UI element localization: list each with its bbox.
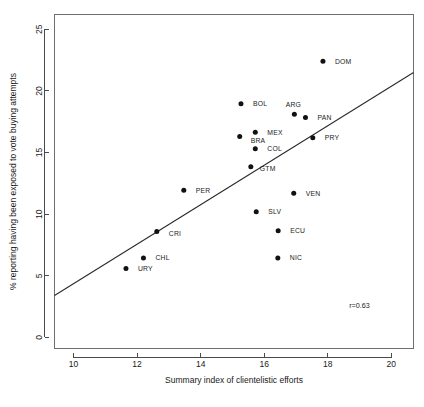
y-axis-tick-label: 10 [35,209,45,219]
correlation-annotation: r=0.63 [349,301,370,310]
regression-line [55,72,414,295]
data-point [181,188,186,193]
data-point-label: VEN [306,190,321,197]
data-point [310,135,315,140]
x-axis-tick-label: 10 [69,359,79,369]
y-axis-title: % reporting having been exposed to vote … [8,73,18,290]
data-point-label: CHL [155,254,169,261]
x-axis-tick-label: 20 [387,359,397,369]
data-point-label: URY [138,265,153,272]
data-point [248,164,253,169]
y-axis-tick-label: 0 [35,335,45,340]
y-axis-tick-label: 25 [35,24,45,34]
data-point-label: SLV [268,208,281,215]
data-point-label: DOM [335,58,352,65]
data-point-label: BRA [251,137,266,144]
data-point [275,255,280,260]
data-point-label: GTM [260,165,276,172]
x-axis-tick-label: 12 [132,359,142,369]
data-point-label: PER [196,187,211,194]
data-point [303,115,308,120]
plot-canvas: 0510152025101214161820Summary index of c… [0,0,424,407]
data-point [141,255,146,260]
data-point-label: ECU [290,227,305,234]
data-point [238,101,243,106]
data-point [253,130,258,135]
data-point-label: COL [267,145,282,152]
y-axis-tick-label: 5 [35,273,45,278]
data-point [276,228,281,233]
data-point [123,266,128,271]
data-point [154,229,159,234]
data-point [292,112,297,117]
x-axis-tick-label: 16 [259,359,269,369]
x-axis-tick-label: 14 [196,359,206,369]
data-point [320,59,325,64]
data-point-label: PAN [317,114,331,121]
data-point-label: NIC [290,254,302,261]
data-point-label: CRI [169,230,181,237]
data-point-label: ARG [286,101,301,108]
y-axis-tick-label: 20 [35,86,45,96]
data-point-label: PRY [325,134,340,141]
x-axis-title: Summary index of clientelistic efforts [165,375,303,385]
plot-frame [55,15,414,349]
x-axis-tick-label: 18 [323,359,333,369]
data-point-label: MEX [267,129,283,136]
data-point [237,134,242,139]
y-axis-tick-label: 15 [35,148,45,158]
data-point [253,146,258,151]
scatter-plot-figure: 0510152025101214161820Summary index of c… [0,0,424,407]
data-point-label: BOL [253,100,267,107]
data-point [291,191,296,196]
data-point [254,209,259,214]
